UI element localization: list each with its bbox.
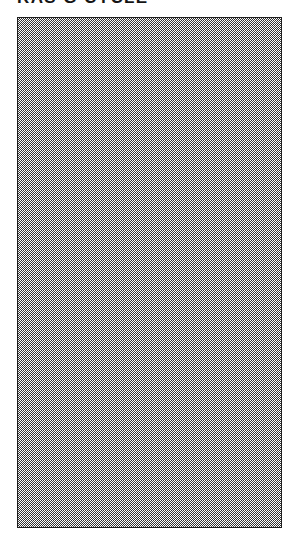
halftone-figure-block bbox=[17, 17, 282, 528]
dither-pattern-fill bbox=[18, 18, 281, 527]
page-canvas: RAS G CYCLE bbox=[0, 0, 299, 548]
page-title: RAS G CYCLE bbox=[17, 0, 149, 7]
heading-clip-region: RAS G CYCLE bbox=[0, 0, 299, 7]
